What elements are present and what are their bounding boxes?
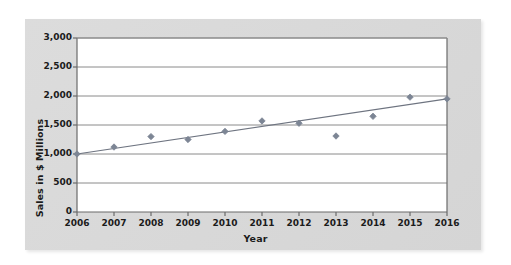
y-tick-label: 3,000 xyxy=(28,32,72,42)
x-tick-label: 2012 xyxy=(281,218,317,228)
figure: 05001,0001,5002,0002,5003,000 2006200720… xyxy=(0,0,511,265)
x-tick-label: 2013 xyxy=(318,218,354,228)
x-tick-label: 2014 xyxy=(355,218,391,228)
x-axis-title: Year xyxy=(0,233,511,244)
y-axis-title-text: Sales in $ Millions xyxy=(34,119,45,217)
x-tick-label: 2008 xyxy=(133,218,169,228)
x-tick-label: 2010 xyxy=(207,218,243,228)
x-tick-label: 2016 xyxy=(429,218,465,228)
y-axis-title: Sales in $ Millions xyxy=(27,68,41,168)
x-tick-label: 2007 xyxy=(96,218,132,228)
x-tick-label: 2009 xyxy=(170,218,206,228)
x-tick-label: 2006 xyxy=(59,218,95,228)
x-tick-label: 2015 xyxy=(392,218,428,228)
x-tick-label: 2011 xyxy=(244,218,280,228)
